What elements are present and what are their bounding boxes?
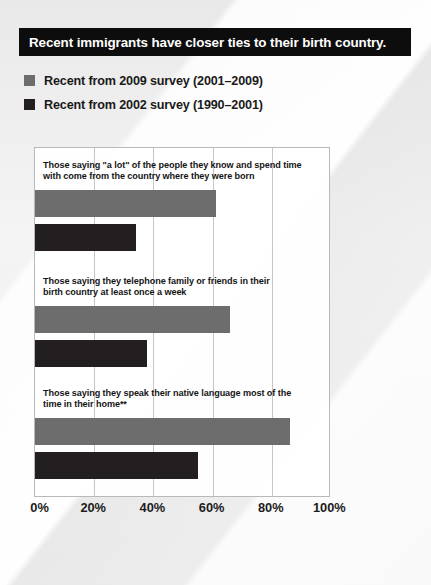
bar-group-label: Those saying they speak their native lan… [43,388,305,411]
legend-item: Recent from 2002 survey (1990–2001) [24,94,414,115]
legend-swatch-survey_2002 [24,99,35,110]
legend-item: Recent from 2009 survey (2001–2009) [24,70,414,91]
legend-swatch-survey_2009 [24,75,35,86]
bar-survey-2009 [35,306,230,333]
bar-survey-2009 [35,190,216,217]
bar-survey-2009 [35,418,290,445]
chart-page: Recent immigrants have closer ties to th… [0,0,431,585]
chart-title-bar: Recent immigrants have closer ties to th… [19,28,411,56]
x-tick-label: 100% [313,500,346,515]
plot-area: Those saying "a lot" of the people they … [34,147,330,497]
x-tick-label: 20% [80,500,106,515]
bar-group-label: Those saying they telephone family or fr… [43,276,305,299]
x-tick-label: 0% [30,500,49,515]
legend-item-label: Recent from 2009 survey (2001–2009) [44,74,263,88]
x-tick-label: 60% [199,500,225,515]
bar-group-label: Those saying "a lot" of the people they … [43,160,305,183]
x-axis: 0%20%40%60%80%100% [34,500,330,522]
legend-item-label: Recent from 2002 survey (1990–2001) [44,98,263,112]
x-tick-label: 80% [258,500,284,515]
bar-survey-2002 [35,452,198,479]
x-tick-label: 40% [140,500,166,515]
chart-legend: Recent from 2009 survey (2001–2009)Recen… [24,70,414,118]
bar-survey-2002 [35,224,136,251]
bar-survey-2002 [35,340,147,367]
page-title: Recent immigrants have closer ties to th… [19,35,386,50]
